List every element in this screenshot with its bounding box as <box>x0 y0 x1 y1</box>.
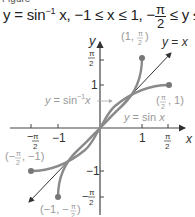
arcsin-curve-label: y = sin−1x <box>44 93 91 106</box>
point-1-pi2 <box>139 55 145 61</box>
svg-text:2: 2 <box>16 159 20 166</box>
point-neg1-neg-pi2 <box>55 194 61 200</box>
label-pi2-1: ( π 2 , 1) <box>156 94 184 110</box>
svg-text:π: π <box>71 203 76 210</box>
svg-text:1: 1 <box>91 78 98 92</box>
svg-text:, 1): , 1) <box>168 94 184 106</box>
svg-text:2: 2 <box>89 59 94 68</box>
x-tick-neg-pi-2-num: π <box>33 132 39 141</box>
svg-text:π: π <box>89 188 95 197</box>
svg-text:π: π <box>138 30 143 37</box>
identity-line-label: y = x <box>161 35 189 49</box>
svg-text:−1: −1 <box>52 131 66 145</box>
svg-text:(−: (− <box>5 150 15 162</box>
svg-text:): ) <box>77 203 81 215</box>
label-neg1-neg-pi2: (−1, − π 2 ) <box>40 203 81 217</box>
svg-text:(1,: (1, <box>121 30 134 42</box>
y-tick-labels: π 2 1 −1 − π 2 y <box>82 33 100 207</box>
sin-curve-label: y = sin x <box>123 111 165 123</box>
svg-text:): ) <box>145 30 149 42</box>
svg-text:π: π <box>161 94 166 101</box>
svg-text:−: − <box>82 190 88 202</box>
x-tick-labels: − π 2 −1 1 π 2 x <box>27 130 193 151</box>
svg-text:2: 2 <box>138 39 142 46</box>
svg-text:(: ( <box>156 94 160 106</box>
svg-text:π: π <box>16 150 21 157</box>
svg-text:2: 2 <box>71 212 75 217</box>
svg-text:2: 2 <box>89 198 94 207</box>
point-neg-pi2-neg1 <box>28 168 34 174</box>
point-pi2-1 <box>166 82 172 88</box>
y-axis-label: y <box>88 33 97 48</box>
graph: − π 2 −1 1 π 2 x π 2 1 −1 − π 2 y (1, π <box>0 0 195 217</box>
svg-text:1: 1 <box>139 131 146 145</box>
x-axis-label: x <box>185 132 193 146</box>
label-neg-pi2-neg1: (− π 2 , −1) <box>5 150 44 166</box>
svg-text:π: π <box>165 132 171 141</box>
label-1-pi2: (1, π 2 ) <box>121 30 149 46</box>
svg-text:2: 2 <box>165 142 170 151</box>
svg-text:−1: −1 <box>86 164 100 178</box>
svg-text:2: 2 <box>161 103 165 110</box>
svg-text:π: π <box>89 49 95 58</box>
svg-text:, −1): , −1) <box>22 150 44 162</box>
svg-text:(−1, −: (−1, − <box>40 203 69 215</box>
